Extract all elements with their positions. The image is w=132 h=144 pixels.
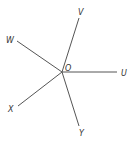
point-label-u: U xyxy=(121,69,127,78)
labels-group: O U V W X Y xyxy=(6,8,127,138)
point-label-y: Y xyxy=(79,129,85,138)
point-label-w: W xyxy=(6,36,15,45)
ray-oy xyxy=(62,72,79,126)
rays-diagram: O U V W X Y xyxy=(0,0,132,144)
point-label-o: O xyxy=(65,64,71,73)
ray-ow xyxy=(17,41,62,72)
point-label-x: X xyxy=(7,105,14,114)
point-label-v: V xyxy=(78,8,84,17)
ray-ox xyxy=(18,72,62,106)
